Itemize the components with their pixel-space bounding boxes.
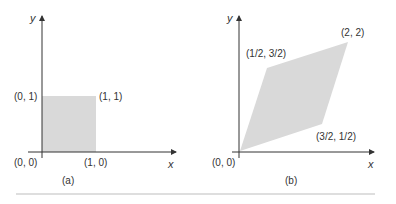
vertex-label-origin: (0, 0) xyxy=(212,157,235,168)
figure-canvas: y x (0, 0) (1, 0) (1, 1) (0, 1) (a) y x … xyxy=(0,0,396,204)
y-axis-label: y xyxy=(29,12,37,24)
vertex-label-0-1: (0, 1) xyxy=(14,91,37,102)
panel-caption-a: (a) xyxy=(62,175,74,186)
vertex-label-1-1: (1, 1) xyxy=(99,91,122,102)
vertex-label-2-2: (2, 2) xyxy=(341,27,364,38)
vertex-label-1-0: (1, 0) xyxy=(84,157,107,168)
vertex-label-1-2-3-2: (1/2, 3/2) xyxy=(246,48,286,59)
x-axis-label: x xyxy=(167,158,174,170)
panel-b: y x (0, 0) (3/2, 1/2) (2, 2) (1/2, 3/2) … xyxy=(212,12,374,186)
vertex-label-3-2-1-2: (3/2, 1/2) xyxy=(316,131,356,142)
x-axis-label: x xyxy=(367,158,374,170)
vertex-label-origin: (0, 0) xyxy=(14,157,37,168)
y-axis-label: y xyxy=(226,12,234,24)
panel-a: y x (0, 0) (1, 0) (1, 1) (0, 1) (a) xyxy=(14,12,176,186)
unit-square xyxy=(42,96,96,152)
panel-caption-b: (b) xyxy=(285,175,297,186)
